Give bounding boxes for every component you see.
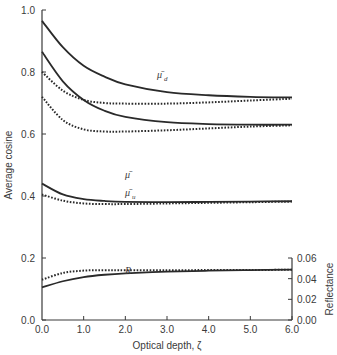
x-tick-label: 3.0 — [160, 324, 174, 335]
chart: 0.01.02.03.04.05.06.00.00.20.40.60.81.00… — [0, 0, 337, 355]
y2-tick-label: 0.00 — [297, 315, 317, 326]
x-tick-label: 1.0 — [77, 324, 91, 335]
ticks: 0.01.02.03.04.05.06.00.00.20.40.60.81.00… — [21, 5, 317, 335]
y-tick-label: 0.2 — [21, 253, 35, 264]
curve-label-mu: μ̄ — [124, 169, 133, 180]
y2-axis-title: Reflectance — [324, 262, 335, 315]
svg-text:μ̄: μ̄ — [124, 169, 133, 180]
svg-text:d: d — [164, 75, 168, 83]
y-tick-label: 0.6 — [21, 129, 35, 140]
curve-label-mu-u: μ̄ u — [124, 187, 136, 201]
y-tick-label: 1.0 — [21, 5, 35, 16]
curve-label-r: R — [124, 265, 131, 276]
svg-text:u: u — [132, 193, 136, 201]
curves — [42, 21, 292, 288]
y-tick-label: 0.4 — [21, 191, 35, 202]
y-tick-label: 0.8 — [21, 67, 35, 78]
x-tick-label: 0.0 — [35, 324, 49, 335]
svg-text:R: R — [124, 265, 131, 276]
y2-tick-label: 0.02 — [297, 294, 317, 305]
axes — [42, 10, 292, 320]
curve-d-solid — [42, 21, 292, 98]
x-tick-label: 5.0 — [243, 324, 257, 335]
y-axis-title: Average cosine — [3, 130, 14, 199]
curve-dotted — [42, 97, 292, 132]
y2-tick-label: 0.06 — [297, 253, 317, 264]
x-tick-label: 4.0 — [202, 324, 216, 335]
y-tick-label: 0.0 — [21, 315, 35, 326]
curve-label-mu-d: μ̄ d — [156, 69, 168, 83]
x-axis-title: Optical depth, ζ — [133, 340, 202, 352]
x-tick-label: 2.0 — [118, 324, 132, 335]
curve-r-solid — [42, 270, 292, 288]
y2-tick-label: 0.04 — [297, 274, 317, 285]
curve-u-solid — [42, 184, 292, 203]
